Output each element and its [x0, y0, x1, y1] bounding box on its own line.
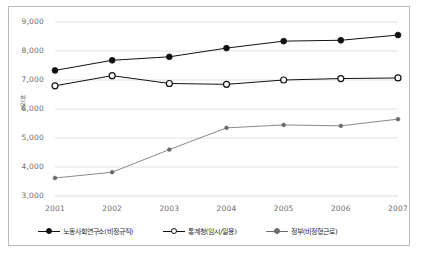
x-axis-tick-label: 2005 — [262, 204, 306, 213]
y-axis-tick-label: 4,000 — [8, 162, 44, 171]
data-point — [166, 80, 172, 86]
data-point — [282, 123, 286, 127]
data-point — [281, 77, 287, 83]
x-axis-tick-label: 2003 — [147, 204, 191, 213]
data-point — [224, 81, 230, 87]
x-axis-tick-label: 2002 — [90, 204, 134, 213]
legend-label: 통계청(임시/일용) — [188, 226, 237, 236]
x-axis-tick-label: 2007 — [376, 204, 420, 213]
data-point — [225, 126, 229, 130]
y-axis-tick-label: 3,000 — [8, 191, 44, 200]
data-point — [109, 73, 115, 79]
legend-marker-icon — [163, 227, 185, 236]
y-axis-tick-label: 6,000 — [8, 104, 44, 113]
data-point — [395, 32, 401, 38]
legend-item[interactable]: 통계청(임시/일용) — [163, 226, 237, 236]
legend-item[interactable]: 정부(비정형근로) — [266, 226, 338, 236]
x-axis-tick-label: 2006 — [319, 204, 363, 213]
data-point — [339, 124, 343, 128]
data-point — [395, 75, 401, 81]
x-axis-tick-label: 2001 — [33, 204, 77, 213]
legend-label: 정부(비정형근로) — [291, 226, 338, 236]
legend-label: 노동사회연구소(비정규직) — [63, 226, 133, 236]
data-point — [167, 148, 171, 152]
data-point — [396, 117, 400, 121]
data-point — [338, 76, 344, 82]
data-point — [52, 83, 58, 89]
data-point — [224, 45, 230, 51]
series-line — [55, 35, 398, 70]
x-axis-tick-label: 2004 — [205, 204, 249, 213]
y-axis-tick-label: 5,000 — [8, 133, 44, 142]
data-point — [166, 54, 172, 60]
data-point — [338, 37, 344, 43]
y-axis-tick-label: 9,000 — [8, 17, 44, 26]
chart-legend: 노동사회연구소(비정규직)통계청(임시/일용)정부(비정형근로) — [8, 224, 410, 238]
y-axis-tick-label: 8,000 — [8, 46, 44, 55]
data-point — [109, 57, 115, 63]
chart-figure: 천 명 3,0004,0005,0006,0007,0008,0009,000 … — [0, 0, 421, 259]
y-axis-tick-label: 7,000 — [8, 75, 44, 84]
data-point — [53, 176, 57, 180]
data-point — [281, 38, 287, 44]
data-point — [110, 170, 114, 174]
data-point — [52, 68, 58, 74]
legend-marker-icon — [38, 227, 60, 236]
plot-area — [0, 0, 421, 259]
legend-marker-icon — [266, 227, 288, 236]
legend-item[interactable]: 노동사회연구소(비정규직) — [38, 226, 133, 236]
